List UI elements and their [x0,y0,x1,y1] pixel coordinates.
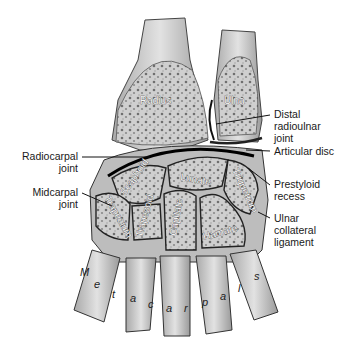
label-distal-radioulnar-joint: Distalradioulnarjoint [274,108,321,144]
radius-bone [112,18,208,150]
wrist-anatomy-figure: Radius Ulna Scaphoid Lunate Triquetrum T… [0,0,360,344]
metacarpal-bones [74,250,278,336]
radius-label: Radius [140,95,171,106]
ulna-bone [214,30,262,142]
svg-text:e: e [94,278,100,290]
label-articular-disc: Articular disc [274,145,334,157]
svg-text:s: s [254,270,260,282]
label-prestyloid-recess: Prestyloidrecess [274,178,320,202]
label-radiocarpal-joint: Radiocarpaljoint [4,150,78,174]
svg-text:a: a [166,302,172,314]
svg-text:t: t [112,288,116,300]
svg-text:a: a [220,290,226,302]
label-midcarpal-joint: Midcarpaljoint [4,186,78,210]
label-ulnar-collateral-ligament: Ulnarcollateralligament [274,212,316,248]
svg-text:a: a [130,292,136,304]
ulna-label: Ulna [224,95,245,106]
svg-text:M: M [80,266,90,278]
svg-text:c: c [148,298,154,310]
svg-text:p: p [201,296,208,308]
